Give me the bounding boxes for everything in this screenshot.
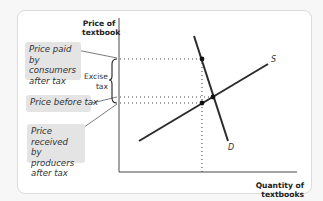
excise-tax-label: Excise tax xyxy=(78,72,108,92)
consumer-price-leader xyxy=(77,50,117,58)
excise-label-line1: Excise xyxy=(78,72,108,82)
producer-price-point xyxy=(200,101,205,106)
excise-tax-brace xyxy=(109,59,117,103)
x-axis-label: Quantity of textbooks xyxy=(220,181,304,199)
demand-label: D xyxy=(228,143,234,152)
consumer-price-box: Price paid by consumers after tax xyxy=(25,42,81,80)
y-axis-label-line1: Price of xyxy=(82,19,116,28)
excise-label-line2: tax xyxy=(78,82,108,92)
consumer-price-point xyxy=(200,57,205,62)
demand-curve xyxy=(194,36,228,141)
producer-price-box: Price received by producers after tax xyxy=(27,124,85,163)
y-axis-label: Price of textbook xyxy=(82,19,116,37)
equilibrium-point xyxy=(211,95,216,100)
price-before-tax-box: Price before tax xyxy=(26,95,91,112)
y-axis-label-line2: textbook xyxy=(82,28,116,37)
supply-label: S xyxy=(271,55,276,64)
